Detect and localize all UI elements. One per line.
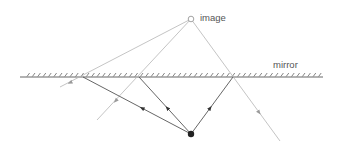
incident-ray-middle — [139, 77, 191, 134]
incident-ray-left — [83, 77, 191, 134]
virtual-ray-right — [191, 19, 280, 141]
mirror — [20, 73, 323, 77]
real-rays — [83, 77, 233, 134]
image-label: image — [200, 13, 226, 23]
object-point — [188, 131, 194, 137]
mirror-hatching — [27, 73, 321, 77]
virtual-ray-middle — [97, 19, 191, 120]
incident-ray-right — [191, 77, 233, 134]
diagram-svg — [0, 0, 338, 152]
mirror-label: mirror — [273, 60, 298, 70]
mirror-reflection-diagram: image mirror — [0, 0, 338, 152]
image-point — [188, 16, 194, 22]
